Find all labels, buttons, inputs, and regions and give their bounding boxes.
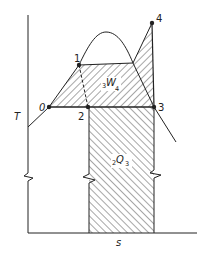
point-4: [150, 21, 154, 25]
s-axis-label: s: [116, 237, 121, 248]
point-0-label: 0: [39, 102, 45, 113]
heat-label: 2 Q 3: [111, 154, 132, 168]
svg-text:4: 4: [115, 85, 119, 93]
point-0: [47, 105, 51, 109]
point-1-label: 1: [74, 53, 80, 64]
point-2: [86, 105, 90, 109]
ts-diagram: 0 1 2 3 4 T s 3 W 4 2 Q 3: [0, 0, 205, 256]
t-axis-label: T: [14, 111, 21, 122]
work-label: 3 W 4: [101, 77, 121, 93]
heat-area: [83, 107, 161, 233]
point-3-label: 3: [158, 102, 164, 113]
svg-text:3: 3: [125, 160, 129, 168]
point-3: [152, 105, 156, 109]
svg-text:Q: Q: [116, 154, 124, 165]
point-2-label: 2: [78, 111, 84, 122]
point-4-label: 4: [156, 13, 162, 24]
work-area: [49, 23, 154, 107]
